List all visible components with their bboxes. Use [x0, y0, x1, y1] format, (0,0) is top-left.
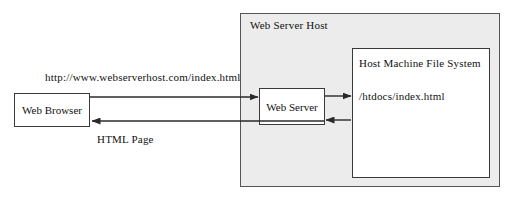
web-browser-box: Web Browser	[14, 93, 90, 127]
web-server-box: Web Server	[259, 88, 325, 125]
web-server-host-label: Web Server Host	[250, 19, 328, 31]
diagram-canvas: Web Server Host Host Machine File System…	[0, 0, 512, 210]
request-url-label: http://www.webserverhost.com/index.html	[45, 71, 241, 83]
file-path-label: /htdocs/index.html	[359, 90, 445, 102]
web-server-label: Web Server	[260, 89, 324, 124]
web-browser-label: Web Browser	[15, 94, 89, 126]
host-machine-file-system-label: Host Machine File System	[359, 57, 481, 69]
response-html-page-label: HTML Page	[97, 133, 154, 145]
